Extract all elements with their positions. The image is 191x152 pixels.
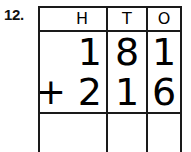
- addends-cell-ones: 1 6: [148, 32, 180, 112]
- digit-stack-ones: 1 6: [148, 32, 180, 112]
- header-label-ones: O: [148, 11, 180, 27]
- addend-2-value-tens: 1: [108, 72, 146, 112]
- addend-1-value-ones: 1: [148, 32, 180, 72]
- header-label-hundreds: H: [40, 11, 106, 27]
- header-cell-hundreds: H: [40, 8, 108, 30]
- answer-cell-hundreds[interactable]: [40, 114, 108, 152]
- addend-2-digit-hundreds: + 2: [40, 72, 106, 112]
- answer-cell-tens[interactable]: [108, 114, 148, 152]
- header-cell-ones: O: [148, 8, 180, 30]
- digit-stack-hundreds: 1 + 2: [40, 32, 106, 112]
- place-value-grid: H T O 1 + 2: [38, 6, 182, 152]
- answer-value-ones[interactable]: [148, 114, 180, 152]
- addends-cell-hundreds: 1 + 2: [40, 32, 108, 112]
- addend-1-digit-hundreds: 1: [40, 32, 106, 72]
- problem-number-label: 12.: [4, 7, 24, 22]
- answer-value-hundreds[interactable]: [40, 114, 106, 152]
- addends-cell-tens: 8 1: [108, 32, 148, 112]
- header-label-tens: T: [108, 11, 146, 27]
- answer-cell-ones[interactable]: [148, 114, 180, 152]
- digit-stack-tens: 8 1: [108, 32, 146, 112]
- addends-row: 1 + 2 8 1 1 6: [40, 32, 180, 114]
- worksheet-problem: 12. H T O 1 +: [0, 0, 191, 152]
- addend-2-value-hundreds: 2: [78, 73, 102, 111]
- answer-value-tens[interactable]: [108, 114, 146, 152]
- addend-1-value-tens: 8: [108, 32, 146, 72]
- addition-operator: +: [40, 74, 66, 110]
- addend-2-value-ones: 6: [148, 72, 180, 112]
- header-cell-tens: T: [108, 8, 148, 30]
- answer-row: [40, 114, 180, 152]
- addend-1-value-hundreds: 1: [78, 33, 102, 71]
- place-value-header-row: H T O: [40, 8, 180, 32]
